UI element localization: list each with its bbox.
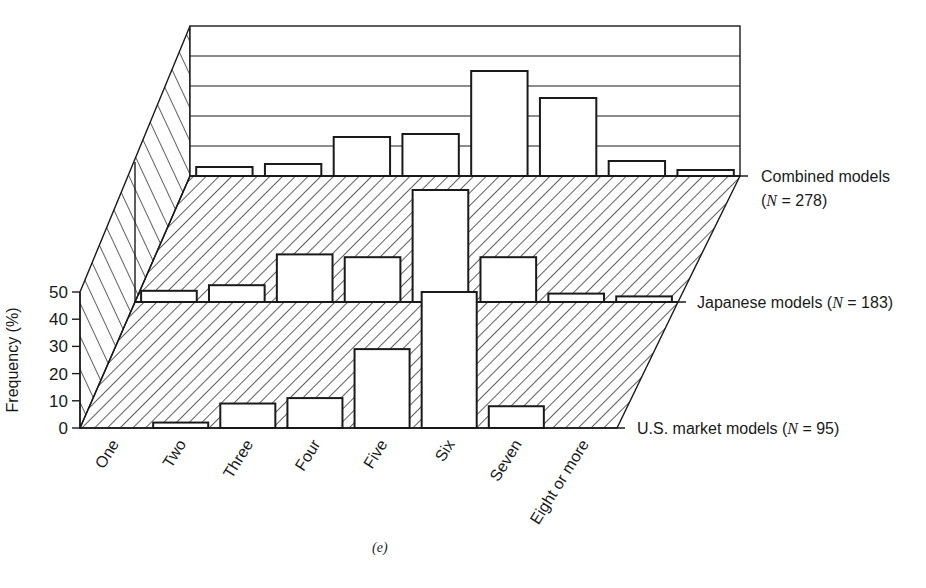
y-tick-label: 0	[59, 419, 68, 438]
y-axis-label: Frequency (%)	[4, 308, 21, 413]
category-label: Three	[220, 436, 257, 481]
y-tick-label: 30	[49, 337, 68, 356]
us-market-models-panel	[80, 292, 678, 428]
bar	[196, 167, 252, 176]
series-label: Japanese models (N = 183)	[697, 294, 893, 311]
bar	[489, 406, 544, 428]
y-tick-label: 10	[49, 392, 68, 411]
bar	[609, 161, 665, 176]
layered-bar-chart: 01020304050Frequency (%) OneTwoThreeFour…	[0, 0, 926, 588]
bar	[265, 164, 321, 176]
series-label: U.S. market models (N = 95)	[637, 420, 839, 437]
category-label: Five	[360, 437, 390, 472]
series-label: Combined models	[761, 168, 890, 185]
bar	[153, 423, 208, 428]
bar	[677, 170, 733, 176]
bar	[287, 398, 342, 428]
bar	[471, 71, 527, 176]
figure-caption: (e)	[372, 540, 388, 556]
bar	[355, 349, 410, 428]
y-tick-label: 20	[49, 365, 68, 384]
bar	[413, 190, 469, 302]
combined-models-panel	[190, 26, 748, 176]
bar	[480, 257, 536, 302]
bar	[220, 404, 275, 428]
category-label: Two	[159, 436, 189, 470]
category-label: Six	[432, 437, 458, 465]
x-axis-category-labels: OneTwoThreeFourFiveSixSevenEight or more	[92, 436, 592, 527]
category-label: Seven	[486, 437, 524, 484]
y-tick-label: 40	[49, 310, 68, 329]
y-axis: 01020304050Frequency (%)	[4, 283, 80, 438]
bar	[141, 291, 197, 302]
y-tick-label: 50	[49, 283, 68, 302]
bar	[334, 137, 390, 176]
category-label: One	[92, 437, 122, 472]
bar	[345, 257, 401, 302]
bar	[209, 285, 265, 302]
japanese-models-panel	[135, 176, 740, 302]
category-label: Eight or more	[527, 437, 592, 528]
bar	[422, 292, 477, 428]
bar	[402, 134, 458, 176]
series-label-n: (N = 278)	[761, 192, 827, 209]
category-label: Four	[292, 436, 324, 473]
bar	[548, 294, 604, 302]
bar	[540, 98, 596, 176]
bar	[277, 254, 333, 302]
bar	[616, 296, 672, 302]
